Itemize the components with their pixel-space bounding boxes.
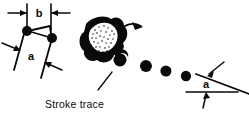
left-detail-group: b a xyxy=(2,4,70,78)
trail-particle-1 xyxy=(114,54,127,67)
debris-cluster-group xyxy=(80,17,144,63)
caption-leader-line xyxy=(98,72,112,90)
dimension-label-a-left: a xyxy=(28,50,35,62)
dim-a-right-lower-arrow-head xyxy=(203,92,210,99)
trail-particle-4 xyxy=(181,71,191,81)
groove-edge-right xyxy=(41,42,51,78)
right-detail-group: a xyxy=(186,62,249,108)
stroke-trace-figure: b a xyxy=(0,0,249,128)
dim-a-right-upper-arrow-shaft xyxy=(209,62,224,74)
trail-particle-3 xyxy=(160,65,171,76)
caption-group: Stroke trace xyxy=(45,72,112,110)
dim-b-arrow-right-head xyxy=(51,10,58,16)
particle-trail-group xyxy=(114,53,193,81)
dim-b-arrow-left-head xyxy=(20,10,27,16)
groove-edge-left xyxy=(14,34,24,70)
figure-canvas: b a xyxy=(0,0,249,128)
trail-particle-2 xyxy=(140,60,152,72)
dimension-label-b: b xyxy=(36,7,43,19)
tip-dot-right xyxy=(47,33,57,43)
dimension-label-a-right: a xyxy=(203,78,210,90)
caption-text: Stroke trace xyxy=(45,98,104,110)
